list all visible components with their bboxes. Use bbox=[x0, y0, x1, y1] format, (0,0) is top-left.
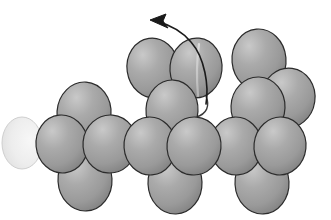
figure-root: Space-filling model of a chain molecule bbox=[0, 0, 331, 220]
molecular-model-canvas bbox=[0, 0, 331, 220]
